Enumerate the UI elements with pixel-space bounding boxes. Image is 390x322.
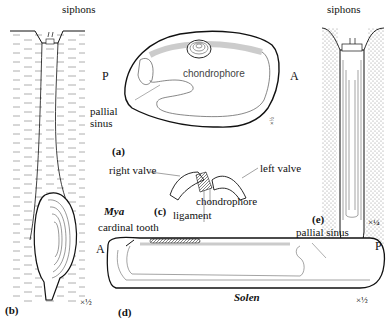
label-genus-mya: Mya — [104, 206, 124, 217]
label-siphons-e: siphons — [327, 4, 361, 15]
label-posterior-d: P — [375, 240, 382, 252]
label-genus-solen: Solen — [234, 292, 260, 303]
panel-b-mya-burrow — [10, 31, 85, 302]
scale-d: ×½ — [356, 296, 368, 305]
panel-d-solen-valve — [107, 237, 384, 288]
scale-e: ×¼ — [368, 218, 380, 227]
label-chondrophore-c: chondrophore — [196, 196, 257, 207]
panel-label-c: (c) — [154, 206, 166, 217]
label-siphons-b: siphons — [62, 4, 96, 15]
panel-label-a: (a) — [112, 146, 125, 157]
label-right-valve: right valve — [109, 165, 156, 176]
label-left-valve: left valve — [260, 163, 301, 174]
label-cardinal-tooth: cardinal tooth — [98, 222, 159, 233]
panel-label-b: (b) — [5, 305, 18, 316]
label-ligament: ligament — [173, 210, 212, 221]
label-anterior-a: A — [290, 70, 299, 82]
label-posterior-a: P — [102, 70, 109, 82]
label-chondrophore-a: chondrophore — [183, 69, 245, 79]
label-pallial-sinus-d: pallial sinus — [296, 227, 349, 238]
panel-label-d: (d) — [118, 307, 131, 318]
panel-a-mya-valve — [125, 31, 279, 127]
bivalve-figure — [0, 0, 390, 322]
label-pallial-a: pallial — [90, 106, 118, 117]
panel-label-e: (e) — [312, 214, 324, 225]
label-anterior-d: A — [96, 243, 105, 255]
scale-b: ×½ — [80, 298, 92, 307]
scale-a: ×½ — [269, 117, 275, 125]
label-sinus-a: sinus — [90, 118, 113, 129]
